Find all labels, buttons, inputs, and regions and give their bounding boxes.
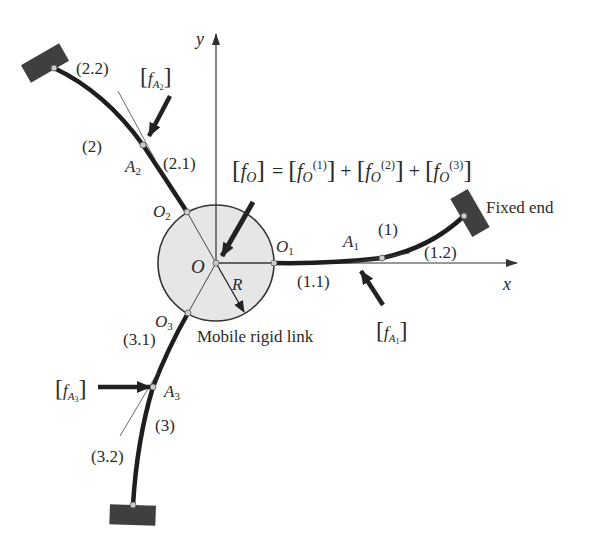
o3-label: O3 — [155, 312, 173, 332]
compliant-mechanism-diagram: y x O R Mobile rigid link [fO] = [fO(1)]… — [0, 0, 594, 556]
beam-2-label: (2) — [82, 137, 102, 156]
segment-2-2-label: (2.2) — [76, 59, 109, 78]
center-label: O — [191, 256, 205, 277]
segment-1-2-label: (1.2) — [424, 243, 457, 262]
tangent-line-3 — [120, 372, 158, 436]
point-a3 — [150, 384, 156, 390]
fixed-end-label: Fixed end — [486, 198, 554, 217]
o2-label: O2 — [153, 202, 171, 222]
point-a2 — [140, 142, 146, 148]
point-o2 — [184, 209, 190, 215]
fixed-end-point-1 — [461, 213, 467, 219]
force-a1-label: [fA1] — [376, 317, 407, 346]
x-axis-label: x — [502, 274, 511, 294]
force-arrow-a2 — [149, 96, 170, 136]
o1-label: O1 — [276, 237, 294, 257]
a3-label: A3 — [163, 382, 180, 402]
fixed-end-block-2 — [21, 43, 69, 82]
fixed-end-block-1 — [450, 189, 489, 237]
point-o — [213, 260, 219, 266]
force-a2-label: [fA2] — [140, 63, 171, 92]
segment-1-1-label: (1.1) — [297, 272, 330, 291]
force-equation: [fO] = [fO(1)] + [fO(2)] + [fO(3)] — [232, 155, 472, 185]
beam-3-label: (3) — [155, 416, 175, 435]
mobile-rigid-link-label: Mobile rigid link — [197, 327, 314, 346]
beam-1-label: (1) — [378, 220, 398, 239]
fixed-end-point-2 — [51, 65, 57, 71]
point-o3 — [185, 310, 191, 316]
y-axis-label: y — [194, 29, 204, 49]
segment-3-1-label: (3.1) — [123, 330, 156, 349]
segment-3-2-label: (3.2) — [91, 447, 124, 466]
a1-label: A1 — [342, 232, 359, 252]
force-arrow-a1 — [361, 271, 383, 305]
fixed-end-point-3 — [130, 502, 136, 508]
segment-2-1-label: (2.1) — [163, 154, 196, 173]
force-a3-label: [fA3] — [55, 375, 86, 404]
radius-label: R — [231, 275, 243, 294]
point-o1 — [271, 260, 277, 266]
point-a1 — [379, 255, 385, 261]
a2-label: A2 — [124, 157, 141, 177]
